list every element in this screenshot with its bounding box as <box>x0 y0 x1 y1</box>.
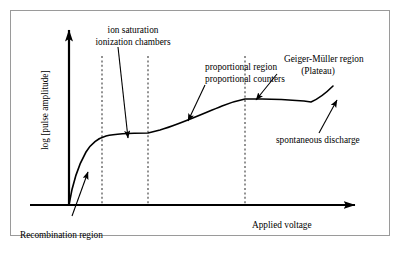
proportional-arrow <box>188 85 205 121</box>
recombination-label: Recombination region <box>20 230 103 240</box>
detector-response-chart: log [pulse amplitude] Applied voltage io… <box>0 0 403 256</box>
ion-saturation-label-line1: ion saturation <box>108 25 159 35</box>
spontaneous-discharge-label: spontaneous discharge <box>276 135 360 145</box>
geiger-label-line1: Geiger-Müller region <box>284 54 364 64</box>
ion-saturation-label-line2: ionization chambers <box>95 37 171 47</box>
figure-root: log [pulse amplitude] Applied voltage io… <box>0 0 403 256</box>
y-axis-label: log [pulse amplitude] <box>40 70 50 150</box>
proportional-label-line2: proportional counters <box>205 74 285 84</box>
spontaneous-discharge-arrow <box>319 100 337 133</box>
x-axis-label: Applied voltage <box>252 220 312 230</box>
ion-saturation-arrow <box>118 47 128 138</box>
geiger-label-line2: (Plateau) <box>301 66 335 77</box>
response-curve <box>69 86 333 205</box>
proportional-label-line1: proportional region <box>205 62 277 72</box>
